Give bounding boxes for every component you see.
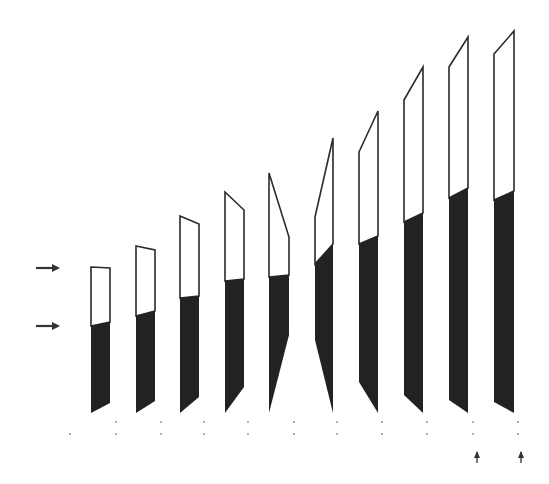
tick-dot bbox=[426, 433, 428, 435]
bar-2 bbox=[136, 246, 155, 413]
bar-empty-segment bbox=[359, 111, 378, 244]
bar-filled-segment bbox=[91, 322, 110, 413]
bar-4 bbox=[225, 192, 244, 413]
bar-empty-segment bbox=[269, 173, 289, 277]
bar-filled-segment bbox=[404, 213, 423, 413]
bar-empty-segment bbox=[449, 37, 468, 198]
tick-dots bbox=[69, 421, 519, 435]
bar-filled-segment bbox=[449, 188, 468, 413]
bar-empty-segment bbox=[404, 67, 423, 222]
tick-dot bbox=[381, 433, 383, 435]
bar-filled-segment bbox=[269, 275, 289, 413]
tick-dot bbox=[336, 433, 338, 435]
bar-filled-segment bbox=[180, 296, 199, 413]
bar-filled-segment bbox=[136, 311, 155, 413]
bar-empty-segment bbox=[494, 31, 514, 200]
tick-dot bbox=[293, 433, 295, 435]
tick-dot bbox=[381, 421, 383, 423]
bar-filled-segment bbox=[315, 244, 333, 413]
bar-empty-segment bbox=[180, 216, 199, 298]
tick-dot bbox=[247, 433, 249, 435]
bar-figure bbox=[0, 0, 549, 484]
tick-dot bbox=[517, 433, 519, 435]
bar-8 bbox=[404, 67, 423, 413]
tick-dot bbox=[69, 433, 71, 435]
bar-filled-segment bbox=[225, 279, 244, 413]
bar-empty-segment bbox=[225, 192, 244, 281]
bar-empty-segment bbox=[315, 138, 333, 264]
bar-empty-segment bbox=[136, 246, 155, 316]
tick-dot bbox=[472, 421, 474, 423]
tick-dot bbox=[336, 421, 338, 423]
tick-dot bbox=[203, 433, 205, 435]
bar-1 bbox=[91, 267, 110, 413]
tick-dot bbox=[160, 433, 162, 435]
bar-10 bbox=[494, 31, 514, 413]
tick-dot bbox=[426, 421, 428, 423]
tick-dot bbox=[203, 421, 205, 423]
tick-dot bbox=[115, 433, 117, 435]
tick-dot bbox=[472, 433, 474, 435]
bar-filled-segment bbox=[359, 236, 378, 413]
bar-7 bbox=[359, 111, 378, 413]
bar-empty-segment bbox=[91, 267, 110, 326]
tick-dot bbox=[115, 421, 117, 423]
bar-3 bbox=[180, 216, 199, 413]
bar-6 bbox=[315, 138, 333, 413]
tick-dot bbox=[517, 421, 519, 423]
tick-dot bbox=[247, 421, 249, 423]
bars-group bbox=[91, 31, 514, 413]
bar-9 bbox=[449, 37, 468, 413]
bar-filled-segment bbox=[494, 191, 514, 413]
bottom-arrows bbox=[477, 452, 521, 463]
tick-dot bbox=[293, 421, 295, 423]
tick-dot bbox=[160, 421, 162, 423]
bar-5 bbox=[269, 173, 289, 413]
side-arrows bbox=[36, 268, 58, 326]
